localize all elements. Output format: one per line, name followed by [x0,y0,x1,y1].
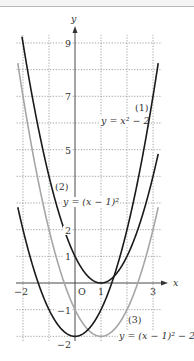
curve-2 [22,37,158,283]
curve-3-number: (3) [128,314,141,325]
curve-2-equation: y = (x − 1)² [62,196,119,207]
curve-2-number: (2) [55,181,68,192]
y-tick-7: 7 [65,91,71,102]
curve-3-equation: y = (x − 1)² − 2 [118,330,194,341]
origin-label: O [78,286,86,297]
x-tick-3: 3 [150,286,156,297]
parabola-chart: x y 9 7 5 2 1 −1 −2 −2 O 1 3 (1) y = x² … [0,0,194,361]
y-tick-neg1: −1 [57,305,71,316]
y-tick-1: 1 [65,251,71,262]
y-tick-9: 9 [65,38,71,49]
y-tick-2: 2 [65,225,71,236]
curve-1-number: (1) [135,102,148,113]
curve-1-equation: y = x² − 2 [100,115,150,126]
x-tick-neg2: −2 [14,286,28,297]
y-axis-arrow-icon [73,26,78,33]
grid [17,35,163,341]
y-tick-5: 5 [65,145,71,156]
x-tick-1: 1 [98,286,104,297]
x-axis-arrow-icon [161,281,168,286]
curves [18,37,158,337]
x-axis-label: x [173,277,179,288]
y-tick-neg2: −2 [57,339,71,350]
y-axis-label: y [70,13,77,24]
